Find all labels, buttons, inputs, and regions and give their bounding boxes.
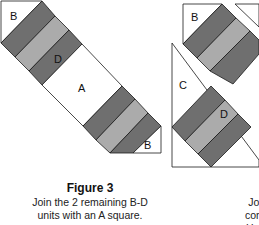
figure-3-caption-line-1: Join the 2 remaining B-D <box>20 196 160 209</box>
figure-4-caption-line-1: Join the pie <box>205 196 259 209</box>
label-a: A <box>78 82 86 94</box>
figure-3-caption-line-2: units with an A square. <box>20 209 160 222</box>
label-c: C <box>179 79 187 91</box>
figure-4-caption-line-3: House, Jack <box>205 222 259 225</box>
figure-3-title: Figure 3 <box>20 181 160 196</box>
label-b-top: B <box>10 10 17 22</box>
label-d: D <box>220 108 228 120</box>
label-b-bottom: B <box>144 139 151 151</box>
figure-3-caption: Figure 3 Join the 2 remaining B-D units … <box>20 181 160 222</box>
label-d: D <box>54 53 62 65</box>
figure-4-caption: Figu Join the pie complete the House, Ja… <box>205 181 259 225</box>
figure-4-caption-line-2: complete the <box>205 209 259 222</box>
label-b: B <box>191 11 198 23</box>
figure-4-title: Figu <box>205 181 259 196</box>
figure-3-diagram <box>1 1 161 153</box>
